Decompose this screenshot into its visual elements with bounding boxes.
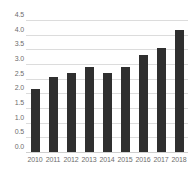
x-tick-label: 2015	[116, 156, 134, 164]
x-axis: 201020112012201320142015201620172018	[26, 156, 188, 170]
bar	[85, 67, 94, 152]
plot-area: 0.00.51.01.52.02.53.03.54.04.5 201020112…	[0, 0, 195, 181]
y-tick-label: 4.5	[4, 11, 24, 18]
x-tick-label: 2014	[98, 156, 116, 164]
y-tick-label: 0.0	[4, 143, 24, 150]
bar	[139, 55, 148, 152]
x-tick-label: 2012	[62, 156, 80, 164]
axis-baseline	[26, 152, 188, 153]
bar	[31, 89, 40, 152]
x-tick-label: 2017	[152, 156, 170, 164]
bar	[49, 77, 58, 152]
y-tick-label: 1.0	[4, 114, 24, 121]
y-tick-label: 2.0	[4, 84, 24, 91]
y-tick-label: 0.5	[4, 128, 24, 135]
y-tick-label: 1.5	[4, 99, 24, 106]
y-axis: 0.00.51.01.52.02.53.03.54.04.5	[4, 14, 24, 152]
y-tick-label: 4.0	[4, 26, 24, 33]
x-tick-label: 2018	[170, 156, 188, 164]
bar	[67, 73, 76, 152]
bar	[121, 67, 130, 152]
x-tick-label: 2013	[80, 156, 98, 164]
bar	[157, 48, 166, 152]
bar-chart: 0.00.51.01.52.02.53.03.54.04.5 201020112…	[0, 0, 195, 181]
y-tick-label: 3.5	[4, 40, 24, 47]
bars-layer	[26, 20, 188, 152]
x-tick-label: 2010	[26, 156, 44, 164]
bar	[103, 73, 112, 152]
y-tick-label: 2.5	[4, 70, 24, 77]
y-tick-label: 3.0	[4, 55, 24, 62]
x-tick-label: 2011	[44, 156, 62, 164]
bar	[175, 30, 184, 152]
x-tick-label: 2016	[134, 156, 152, 164]
